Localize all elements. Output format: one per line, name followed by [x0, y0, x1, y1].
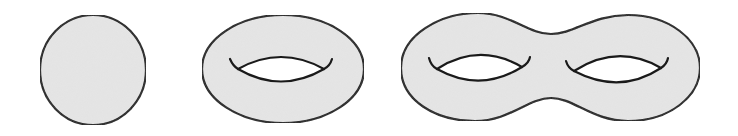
- sphere-surface: [40, 15, 146, 125]
- torus-surface: [202, 15, 364, 123]
- genus-surfaces-diagram: [0, 0, 738, 136]
- double-torus-surface: [401, 13, 700, 121]
